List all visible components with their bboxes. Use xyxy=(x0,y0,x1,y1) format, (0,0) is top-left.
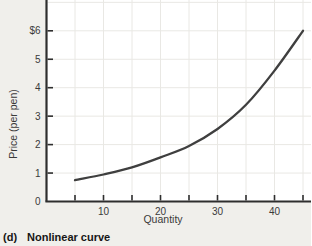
x-tick-label: 10 xyxy=(98,206,110,217)
x-tick-label: 40 xyxy=(269,206,281,217)
nonlinear-curve-figure: 10203040012345$6 Price (per pen) Quantit… xyxy=(0,0,311,246)
chart-canvas: 10203040012345$6 xyxy=(0,0,311,246)
caption-text: Nonlinear curve xyxy=(27,231,110,243)
y-tick-label: 5 xyxy=(35,54,41,65)
y-tick-label: $6 xyxy=(29,25,41,36)
y-tick-label: 1 xyxy=(35,168,41,179)
y-axis-title: Price (per pen) xyxy=(8,89,19,158)
y-tick-label: 4 xyxy=(35,82,41,93)
x-tick-label: 30 xyxy=(212,206,224,217)
y-tick-label: 3 xyxy=(35,111,41,122)
y-tick-label: 0 xyxy=(35,196,41,207)
y-tick-label: 2 xyxy=(35,139,41,150)
x-axis-title: Quantity xyxy=(143,214,182,225)
caption-prefix: (d) xyxy=(3,231,17,243)
plot-area xyxy=(47,0,312,202)
figure-caption: (d)Nonlinear curve xyxy=(3,231,110,243)
